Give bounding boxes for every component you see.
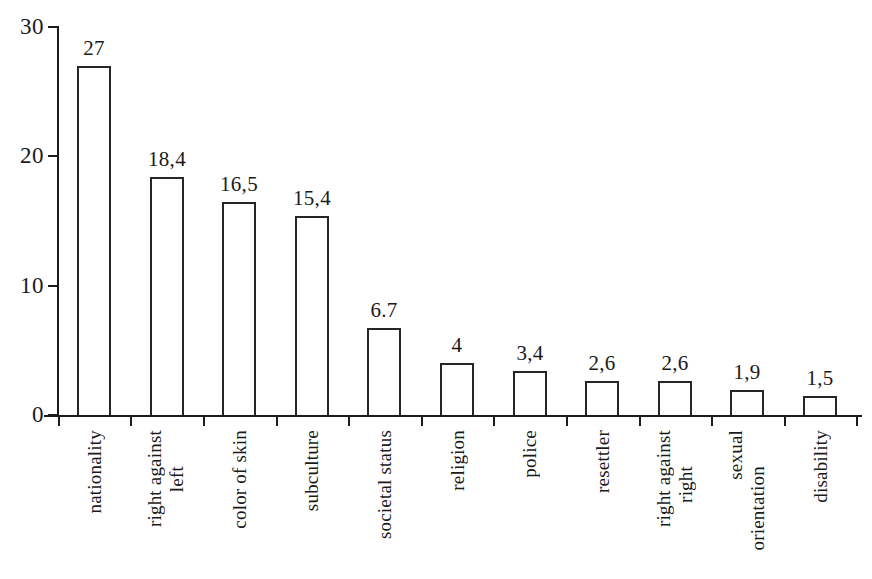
x-axis-category-label-line: orientation bbox=[747, 466, 769, 551]
x-axis-category-label: subculture bbox=[275, 430, 348, 575]
bar bbox=[658, 381, 692, 415]
y-axis-tick-label-text: 10 bbox=[4, 274, 44, 297]
y-axis-tick-label-text: 20 bbox=[4, 144, 44, 167]
x-axis-category-label-line: religion bbox=[447, 430, 469, 491]
bar-value-label: 2,6 bbox=[562, 353, 642, 374]
x-axis-tick bbox=[784, 417, 786, 426]
y-axis-tick bbox=[48, 414, 58, 416]
bar bbox=[150, 177, 184, 415]
bar bbox=[222, 202, 256, 415]
x-axis-tick bbox=[856, 417, 858, 426]
x-axis-category-label-line: color of skin bbox=[229, 430, 251, 529]
x-axis-category-label: societal status bbox=[348, 430, 421, 575]
y-axis-tick-label-text: 0 bbox=[4, 403, 44, 426]
y-axis-tick-label-text: 30 bbox=[4, 15, 44, 38]
x-axis-tick bbox=[203, 417, 205, 426]
y-axis-tick bbox=[48, 285, 58, 287]
x-axis-category-label: disability bbox=[784, 430, 857, 575]
x-axis-category-label: right againstleft bbox=[130, 430, 203, 575]
bar-value-label: 1,5 bbox=[780, 368, 860, 389]
bar bbox=[585, 381, 619, 415]
x-axis-tick bbox=[711, 417, 713, 426]
bar-value-label: 2,6 bbox=[635, 353, 715, 374]
x-axis-tick bbox=[58, 417, 60, 426]
y-axis-tick bbox=[48, 155, 58, 157]
x-axis-category-label: color of skin bbox=[203, 430, 276, 575]
bar bbox=[803, 396, 837, 415]
bar-value-label: 6.7 bbox=[344, 300, 424, 321]
x-axis-category-label-line: left bbox=[166, 466, 188, 492]
x-axis-category-label-line: societal status bbox=[374, 430, 396, 539]
bar bbox=[513, 371, 547, 415]
bar-value-label: 15,4 bbox=[272, 188, 352, 209]
bar-value-label: 16,5 bbox=[199, 174, 279, 195]
x-axis-category-label-line: nationality bbox=[84, 430, 106, 513]
x-axis-category-label: nationality bbox=[58, 430, 131, 575]
x-axis-line bbox=[44, 415, 862, 417]
x-axis-category-label: resettler bbox=[566, 430, 639, 575]
x-axis-tick bbox=[639, 417, 641, 426]
bar-chart: 0102030 2718,416,515,46.743,42,62,61,91,… bbox=[0, 0, 872, 579]
bar-value-label: 18,4 bbox=[127, 149, 207, 170]
x-axis-category-label-line: sexual bbox=[725, 430, 747, 480]
x-axis-tick bbox=[566, 417, 568, 426]
bar bbox=[295, 216, 329, 415]
x-axis-category-label: sexualorientation bbox=[711, 430, 784, 575]
bar-value-label: 4 bbox=[417, 335, 497, 356]
x-axis-category-label: police bbox=[493, 430, 566, 575]
y-axis-tick bbox=[48, 26, 58, 28]
x-axis-category-label-line: subculture bbox=[301, 430, 323, 511]
y-axis-tick-label: 20 bbox=[0, 144, 44, 167]
x-axis-tick bbox=[130, 417, 132, 426]
x-axis-tick bbox=[493, 417, 495, 426]
x-axis-tick bbox=[348, 417, 350, 426]
bar-value-label: 3,4 bbox=[490, 343, 570, 364]
y-axis-tick-label: 30 bbox=[0, 15, 44, 38]
x-axis-category-label-line: right against bbox=[653, 430, 675, 527]
x-axis-category-label-line: right bbox=[675, 466, 697, 503]
x-axis-category-label: right againstright bbox=[639, 430, 712, 575]
y-axis-tick-label: 10 bbox=[0, 274, 44, 297]
y-axis-line bbox=[57, 26, 59, 417]
bar bbox=[77, 66, 111, 415]
x-axis-category-label-line: disability bbox=[810, 430, 832, 503]
bar bbox=[730, 390, 764, 415]
bar-value-label: 1,9 bbox=[707, 362, 787, 383]
x-axis-tick bbox=[276, 417, 278, 426]
x-axis-category-label: religion bbox=[421, 430, 494, 575]
bar-value-label: 27 bbox=[54, 38, 134, 59]
x-axis-tick bbox=[421, 417, 423, 426]
bar bbox=[440, 363, 474, 415]
y-axis-tick-label: 0 bbox=[0, 403, 44, 426]
x-axis-category-label-line: resettler bbox=[592, 430, 614, 493]
bar bbox=[367, 328, 401, 415]
x-axis-category-label-line: right against bbox=[144, 430, 166, 527]
x-axis-category-label-line: police bbox=[519, 430, 541, 478]
